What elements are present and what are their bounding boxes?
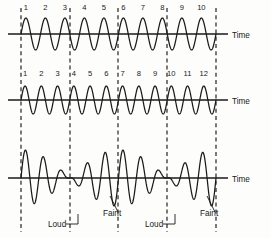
cycle-label-2-12: 12 — [200, 69, 208, 78]
cycle-label-2-10: 10 — [167, 69, 175, 78]
cycle-label-1-6: 6 — [121, 3, 125, 12]
cycle-label-2-5: 5 — [88, 69, 92, 78]
cycle-label-2-11: 11 — [184, 69, 192, 78]
cycle-label-1-10: 10 — [197, 3, 205, 12]
cycle-label-1-3: 3 — [63, 3, 67, 12]
cycle-label-group: 12345678910123456789101112 — [23, 3, 208, 78]
cycle-label-2-6: 6 — [104, 69, 108, 78]
cycle-label-2-9: 9 — [153, 69, 157, 78]
cycle-label-2-2: 2 — [39, 69, 43, 78]
time-caption-2: Time — [232, 97, 250, 106]
cycle-label-1-1: 1 — [24, 3, 28, 12]
wave-diagram-svg: 12345678910123456789101112 LoudFaintLoud… — [0, 0, 271, 238]
cycle-label-2-7: 7 — [120, 69, 124, 78]
cycle-label-1-7: 7 — [141, 3, 145, 12]
cycle-label-2-4: 4 — [72, 69, 76, 78]
axis-caption-group: TimeTimeTime — [232, 31, 250, 184]
time-axis-group — [8, 34, 228, 178]
time-caption-3: Time — [232, 175, 250, 184]
time-caption-1: Time — [232, 31, 250, 40]
annotation-loud-3: Loud — [145, 220, 164, 229]
cycle-label-2-1: 1 — [23, 69, 27, 78]
cycle-label-2-8: 8 — [137, 69, 141, 78]
beats-diagram-figure: 12345678910123456789101112 LoudFaintLoud… — [0, 0, 271, 238]
cycle-label-2-3: 3 — [55, 69, 59, 78]
cycle-label-1-9: 9 — [180, 3, 184, 12]
annotation-loud-1: Loud — [48, 220, 67, 229]
beat-divider-group — [21, 8, 216, 232]
cycle-label-1-4: 4 — [82, 3, 86, 12]
cycle-label-1-2: 2 — [43, 3, 47, 12]
cycle-label-1-8: 8 — [160, 3, 164, 12]
cycle-label-1-5: 5 — [102, 3, 106, 12]
annotation-faint-4: Faint — [200, 209, 219, 218]
annotation-faint-2: Faint — [103, 209, 122, 218]
